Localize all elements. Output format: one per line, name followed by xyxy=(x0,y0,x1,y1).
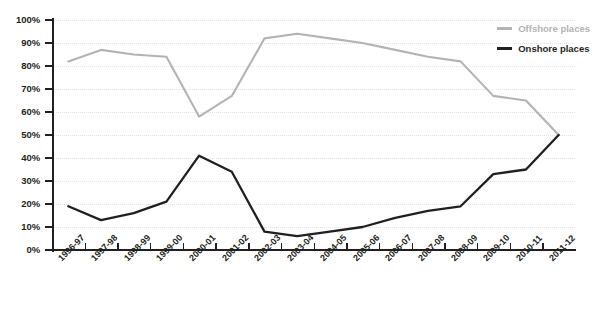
legend-item-onshore: Onshore places xyxy=(497,43,590,54)
y-tick-label: 10% xyxy=(0,221,40,232)
y-tick xyxy=(45,42,54,44)
series-line-offshore-places xyxy=(68,34,558,135)
y-tick-label: 30% xyxy=(0,175,40,186)
y-tick-label: 80% xyxy=(0,60,40,71)
x-tick xyxy=(477,243,478,251)
x-tick xyxy=(542,243,543,251)
y-tick xyxy=(45,203,54,205)
y-tick-label: 60% xyxy=(0,106,40,117)
y-tick-label: 40% xyxy=(0,152,40,163)
gridline xyxy=(54,204,575,206)
y-tick xyxy=(45,88,54,90)
x-tick-label: 2002-03 xyxy=(252,233,282,263)
x-tick xyxy=(183,243,184,251)
y-tick xyxy=(45,157,54,159)
x-tick xyxy=(379,243,380,251)
gridline xyxy=(54,112,575,114)
x-tick-label: 1998-99 xyxy=(122,233,152,263)
x-tick xyxy=(281,243,282,251)
series-line-onshore-places xyxy=(68,135,558,236)
gridline xyxy=(54,20,575,22)
x-tick xyxy=(150,243,151,251)
gridline xyxy=(54,158,575,160)
x-tick-label: 2005-06 xyxy=(351,233,381,263)
x-tick-label: 2000-01 xyxy=(187,233,217,263)
x-tick-label: 2007-08 xyxy=(416,233,446,263)
x-tick-label: 1999-00 xyxy=(154,233,184,263)
x-tick xyxy=(215,243,216,251)
y-tick xyxy=(45,65,54,67)
x-tick-label: 2009-10 xyxy=(481,233,511,263)
y-tick-label: 70% xyxy=(0,83,40,94)
legend-swatch-offshore xyxy=(497,27,512,30)
x-tick-label: 2003-04 xyxy=(285,233,315,263)
x-tick-label: 2004-05 xyxy=(318,233,348,263)
legend-label-offshore: Offshore places xyxy=(518,23,590,34)
x-tick xyxy=(444,243,445,251)
gridline xyxy=(54,89,575,91)
line-chart: 100%90%80%70%60%50%40%30%20%10%0% 1996-9… xyxy=(0,0,598,315)
y-tick-label: 0% xyxy=(0,244,40,255)
x-tick xyxy=(346,243,347,251)
x-tick xyxy=(117,243,118,251)
legend: Offshore places Onshore places xyxy=(497,23,590,63)
x-tick xyxy=(510,243,511,251)
y-tick xyxy=(45,19,54,21)
y-tick-label: 90% xyxy=(0,37,40,48)
y-tick-label: 100% xyxy=(0,14,40,25)
x-tick-label: 2006-07 xyxy=(383,233,413,263)
y-tick xyxy=(45,134,54,136)
y-tick-label: 20% xyxy=(0,198,40,209)
legend-swatch-onshore xyxy=(497,47,512,50)
x-tick-label: 1997-98 xyxy=(89,233,119,263)
y-tick xyxy=(45,180,54,182)
gridline xyxy=(54,227,575,229)
x-tick xyxy=(314,243,315,251)
x-tick-label: 1996-97 xyxy=(56,233,86,263)
x-tick xyxy=(412,243,413,251)
gridline xyxy=(54,135,575,137)
legend-item-offshore: Offshore places xyxy=(497,23,590,34)
x-tick xyxy=(85,243,86,251)
x-tick xyxy=(248,243,249,251)
x-tick-label: 2001-02 xyxy=(220,233,250,263)
y-tick-label: 50% xyxy=(0,129,40,140)
gridline xyxy=(54,181,575,183)
gridline xyxy=(54,66,575,68)
x-tick-label: 2008-09 xyxy=(449,233,479,263)
legend-label-onshore: Onshore places xyxy=(518,43,589,54)
y-tick xyxy=(45,226,54,228)
y-tick xyxy=(45,111,54,113)
